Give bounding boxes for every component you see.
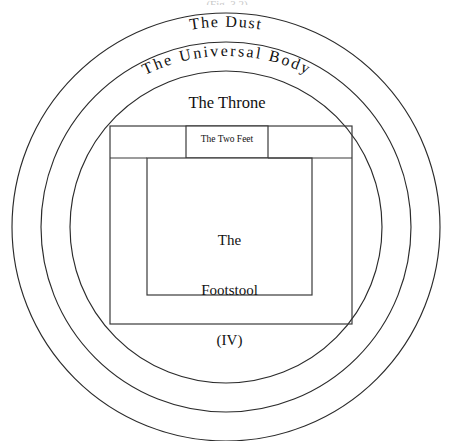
footstool-label-line-2: Footstool	[147, 282, 312, 299]
footstool-label-line-3: (IV)	[147, 332, 312, 349]
ring-label-dust: The Dust	[188, 13, 264, 33]
footstool-label-line-1: The	[147, 232, 312, 249]
box-label-two-feet: The Two Feet	[186, 134, 268, 145]
ring-label-throne: The Throne	[0, 94, 454, 112]
box-label-footstool: The Footstool (IV)	[147, 198, 312, 383]
cosmology-diagram: (Fig. 3.2) The Dust The Universal Body	[0, 0, 454, 441]
ring-label-universal-body: The Universal Body	[139, 42, 314, 79]
